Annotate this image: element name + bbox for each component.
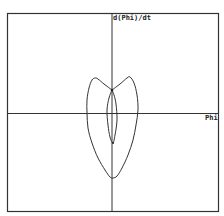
lens-bottom-point xyxy=(112,142,114,144)
cusp-point xyxy=(111,89,114,92)
x-axis-label: Phi xyxy=(205,114,218,122)
y-axis-label: d(Phi)/dt xyxy=(113,14,151,22)
phase-plot xyxy=(0,0,224,216)
plot-frame xyxy=(8,14,219,212)
